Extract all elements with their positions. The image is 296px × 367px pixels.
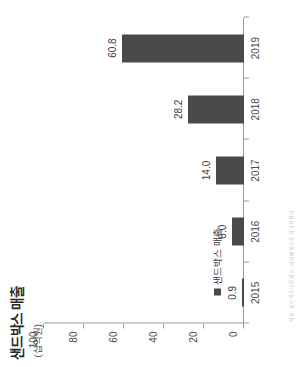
bar[interactable]: 28.2 bbox=[188, 95, 244, 123]
chart-legend: 샌드박스 매출 bbox=[210, 227, 224, 295]
bar-slot: 60.82019 bbox=[44, 17, 244, 78]
y-axis-tick-label: 40 bbox=[148, 331, 159, 342]
x-axis-category-label: 2017 bbox=[250, 159, 261, 181]
y-axis-tick bbox=[243, 323, 244, 328]
legend-label: 샌드박스 매출 bbox=[210, 227, 224, 284]
x-axis-category-label: 2018 bbox=[250, 98, 261, 120]
x-axis-category-label: 2015 bbox=[250, 281, 261, 303]
x-axis-tick bbox=[244, 138, 249, 139]
x-axis-tick bbox=[244, 200, 249, 201]
bar-value-label: 0.9 bbox=[227, 285, 238, 299]
y-axis-tick-label: 0 bbox=[228, 331, 239, 337]
x-axis-category-label: 2019 bbox=[250, 36, 261, 58]
bar[interactable]: 14.0 bbox=[216, 156, 244, 184]
bar[interactable]: 6.0 bbox=[232, 217, 244, 245]
x-axis-tick bbox=[244, 77, 249, 78]
x-axis-category-label: 2016 bbox=[250, 220, 261, 242]
bar-slot: 14.02017 bbox=[44, 139, 244, 200]
bar[interactable]: 60.8 bbox=[122, 34, 244, 62]
legend-swatch-icon bbox=[214, 288, 221, 295]
bar-value-label: 14.0 bbox=[201, 160, 212, 179]
bar[interactable]: 0.9 bbox=[242, 278, 244, 306]
x-axis-tick bbox=[244, 16, 249, 17]
x-axis-tick bbox=[244, 322, 249, 323]
bar-value-label: 60.8 bbox=[107, 38, 118, 57]
bar-value-label: 28.2 bbox=[173, 99, 184, 118]
x-axis-tick bbox=[244, 261, 249, 262]
y-axis-tick bbox=[43, 323, 44, 328]
y-axis-tick bbox=[83, 323, 84, 328]
y-axis-tick bbox=[123, 323, 124, 328]
y-axis-tick bbox=[163, 323, 164, 328]
chart-title: 샌드박스 매출 bbox=[6, 286, 26, 359]
y-axis-tick-label: 20 bbox=[188, 331, 199, 342]
rotated-figure-wrapper: 샌드박스 매출 (십억원) 020406080100 0.920156.0201… bbox=[0, 0, 296, 367]
chart-figure: 샌드박스 매출 (십억원) 020406080100 0.920156.0201… bbox=[0, 0, 296, 367]
y-axis-tick-label: 100 bbox=[28, 331, 39, 348]
source-note: 자료: 샌드박스네트워크, 미래에셋대우 리서치센터 bbox=[288, 209, 295, 321]
y-axis-tick bbox=[203, 323, 204, 328]
y-axis-tick-label: 60 bbox=[108, 331, 119, 342]
y-axis-tick-label: 80 bbox=[68, 331, 79, 342]
bar-slot: 28.22018 bbox=[44, 78, 244, 139]
